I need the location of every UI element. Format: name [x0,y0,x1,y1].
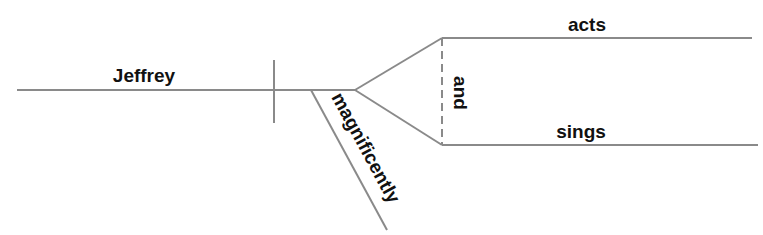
conjunction-word: and [450,76,471,110]
predicate-word-acts: acts [568,14,606,35]
fork-upper [355,38,442,90]
predicate-word-sings: sings [556,121,606,142]
sentence-diagram: Jeffrey acts sings and magnificently [0,0,763,235]
modifier-word: magnificently [327,89,404,207]
subject-word: Jeffrey [113,65,176,86]
